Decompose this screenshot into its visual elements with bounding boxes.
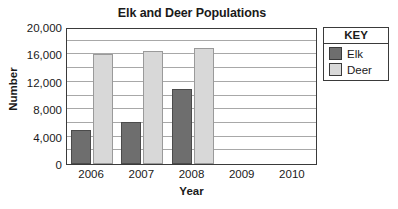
bar-deer-2008 xyxy=(194,48,214,164)
y-tick-label: 0 xyxy=(2,159,62,171)
y-tick-label: 8,000 xyxy=(2,104,62,116)
legend-swatch-deer-icon xyxy=(329,63,342,76)
chart-legend: KEY ElkDeer xyxy=(323,27,389,81)
bar-deer-2007 xyxy=(143,51,163,164)
y-tick-label: 12,000 xyxy=(2,77,62,89)
plot-area xyxy=(66,28,317,165)
legend-label: Elk xyxy=(347,48,363,60)
y-tick-label: 4,000 xyxy=(2,132,62,144)
x-tick-label-2010: 2010 xyxy=(262,168,322,180)
legend-swatch-elk-icon xyxy=(329,47,342,60)
gridline xyxy=(67,40,316,41)
y-tick-label: 20,000 xyxy=(2,22,62,34)
bar-elk-2007 xyxy=(121,122,141,164)
chart-title: Elk and Deer Populations xyxy=(66,6,318,20)
bar-deer-2006 xyxy=(93,54,113,164)
legend-label: Deer xyxy=(347,64,372,76)
legend-items: ElkDeer xyxy=(324,44,388,80)
bar-elk-2008 xyxy=(172,89,192,164)
bar-elk-2006 xyxy=(71,130,91,164)
legend-item-deer: Deer xyxy=(329,63,388,76)
y-tick-label: 16,000 xyxy=(2,49,62,61)
x-axis-title: Year xyxy=(66,185,317,197)
bar-chart-figure: Elk and Deer Populations Number Year KEY… xyxy=(0,0,398,209)
legend-title: KEY xyxy=(324,28,388,44)
legend-item-elk: Elk xyxy=(329,47,388,60)
